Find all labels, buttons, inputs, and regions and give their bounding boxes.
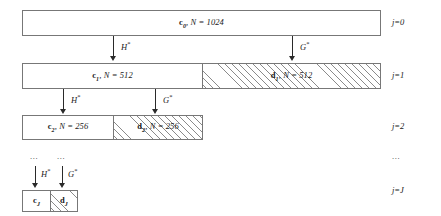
box-d2-label: d2, N = 256 — [137, 122, 179, 133]
ellipsis-left: ... — [30, 152, 38, 161]
ellipsis-right: ... — [392, 152, 400, 161]
box-dJ-label: dJ — [60, 196, 68, 207]
operator-g-sup-lJ: * — [74, 167, 77, 174]
box-c2-n: , N = 256 — [55, 121, 89, 131]
box-c0-label: c0, N = 1024 — [179, 18, 224, 29]
box-dJ: dJ — [50, 190, 78, 212]
operator-label-h-levelJ: H* — [41, 168, 50, 178]
box-c1: c1, N = 512 — [22, 63, 203, 89]
box-d1-label: d1, N = 512 — [271, 71, 313, 82]
operator-label-h-level0: H* — [121, 41, 130, 51]
level-label-j2: j=2 — [392, 122, 404, 131]
operator-label-h-level1: H* — [71, 94, 80, 104]
operator-h-sup: * — [127, 40, 130, 47]
level-label-j1: j=1 — [392, 71, 404, 80]
box-d2: d2, N = 256 — [113, 115, 203, 140]
box-cJ-label: cJ — [33, 196, 40, 207]
box-c2: c2, N = 256 — [22, 115, 114, 140]
ellipsis-middle: ... — [57, 152, 65, 161]
box-d2-n: , N = 256 — [145, 121, 179, 131]
operator-h-sup-lJ: * — [47, 167, 50, 174]
operator-g-sup-l1: * — [169, 93, 172, 100]
box-d1: d1, N = 512 — [202, 63, 381, 89]
wavelet-decomposition-diagram: c0, N = 1024 j=0 H* G* c1, N = 512 d1, N… — [0, 0, 441, 216]
box-c1-label: c1, N = 512 — [92, 71, 133, 82]
box-cJ: cJ — [22, 190, 51, 212]
box-c1-n: , N = 512 — [99, 70, 133, 80]
box-d1-n: , N = 512 — [279, 70, 313, 80]
box-dJ-subscript: J — [65, 200, 68, 206]
box-c0: c0, N = 1024 — [22, 10, 381, 36]
level-label-j0: j=0 — [392, 18, 404, 27]
box-c0-n: , N = 1024 — [186, 17, 224, 27]
box-cJ-subscript: J — [37, 200, 40, 206]
operator-label-g-levelJ: G* — [68, 168, 77, 178]
operator-g-sup: * — [306, 40, 309, 47]
level-label-jJ: j=J — [392, 186, 404, 195]
box-c2-label: c2, N = 256 — [48, 122, 89, 133]
operator-label-g-level1: G* — [163, 94, 172, 104]
operator-h-sup-l1: * — [77, 93, 80, 100]
operator-label-g-level0: G* — [300, 41, 309, 51]
